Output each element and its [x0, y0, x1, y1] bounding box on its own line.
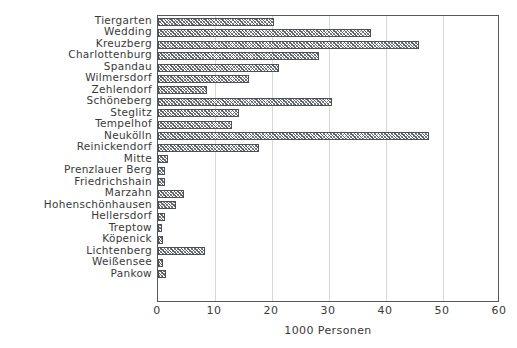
bar-row	[158, 154, 500, 165]
bars-container	[158, 16, 498, 301]
bar-row	[158, 269, 500, 280]
bar-row	[158, 62, 500, 73]
bar-chart: TiergartenWeddingKreuzbergCharlottenburg…	[0, 0, 517, 348]
bar-row	[158, 142, 500, 153]
x-tick-label: 40	[378, 304, 393, 318]
bar-row	[158, 188, 500, 199]
bar	[158, 64, 279, 72]
x-tick-label: 60	[492, 304, 507, 318]
bar-row	[158, 27, 500, 38]
bar	[158, 132, 429, 140]
bar-row	[158, 85, 500, 96]
category-label: Köpenick	[0, 233, 152, 244]
bar-row	[158, 96, 500, 107]
bar	[158, 247, 205, 255]
bar-row	[158, 73, 500, 84]
x-tick-label: 20	[264, 304, 279, 318]
bar	[158, 75, 249, 83]
bar	[158, 167, 165, 175]
bar	[158, 270, 166, 278]
bar-row	[158, 257, 500, 268]
bar	[158, 98, 332, 106]
bar	[158, 190, 184, 198]
bar-row	[158, 50, 500, 61]
category-label: Weißensee	[0, 256, 152, 267]
bar	[158, 236, 163, 244]
bar-row	[158, 39, 500, 50]
y-axis-category-labels: TiergartenWeddingKreuzbergCharlottenburg…	[0, 15, 152, 302]
category-label: Pankow	[0, 268, 152, 279]
bar-row	[158, 165, 500, 176]
bar-row	[158, 131, 500, 142]
category-label: Reinickendorf	[0, 141, 152, 152]
bar	[158, 29, 371, 37]
bar	[158, 259, 163, 267]
bar-row	[158, 177, 500, 188]
bar	[158, 213, 165, 221]
bar	[158, 52, 319, 60]
bar	[158, 201, 176, 209]
x-tick-label: 30	[321, 304, 336, 318]
bar	[158, 41, 419, 49]
plot-area	[157, 15, 499, 302]
bar	[158, 18, 274, 26]
bar-row	[158, 119, 500, 130]
bar-row	[158, 234, 500, 245]
bar-row	[158, 16, 500, 27]
category-label: Prenzlauer Berg	[0, 164, 152, 175]
bar-row	[158, 223, 500, 234]
bar	[158, 144, 259, 152]
bar	[158, 121, 232, 129]
x-tick-label: 10	[207, 304, 222, 318]
bar-row	[158, 200, 500, 211]
category-label: Hellersdorf	[0, 210, 152, 221]
x-tick-label: 0	[153, 304, 160, 318]
category-label: Marzahn	[0, 187, 152, 198]
bar	[158, 155, 168, 163]
x-axis-title: 1000 Personen	[157, 324, 499, 337]
bar	[158, 178, 165, 186]
x-axis-tick-labels: 0102030405060	[157, 304, 499, 320]
bar-row	[158, 246, 500, 257]
x-tick-label: 50	[435, 304, 450, 318]
bar	[158, 86, 207, 94]
bar	[158, 109, 239, 117]
bar	[158, 224, 162, 232]
bar-row	[158, 211, 500, 222]
bar-row	[158, 108, 500, 119]
